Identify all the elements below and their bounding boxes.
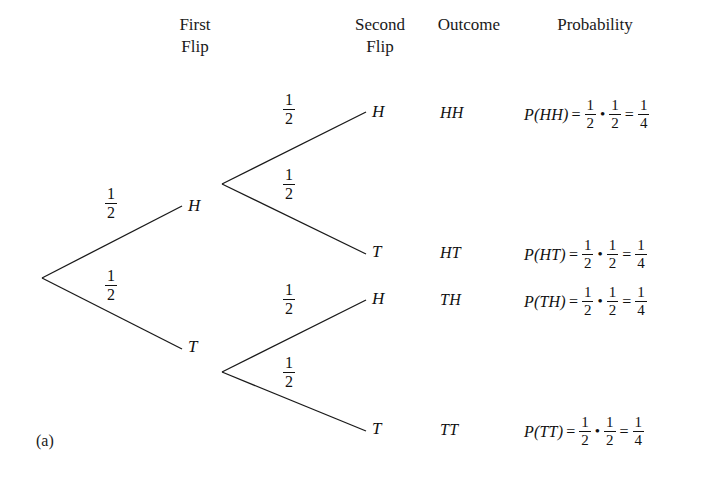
prob-tt-f1-den: 2 [579, 432, 591, 448]
node-second-flip-h-2: H [372, 289, 384, 309]
prob-tt-result-num: 1 [633, 415, 645, 432]
prob-equals-tt: = [566, 423, 575, 441]
prob-th-f2-num: 1 [607, 285, 619, 302]
prob-times-hh: • [600, 107, 605, 122]
prob-equals2-ht: = [622, 246, 631, 264]
prob-times-ht: • [597, 247, 602, 262]
prob-ht-result-num: 1 [635, 238, 647, 255]
prob-th-f2-den: 2 [607, 302, 619, 318]
prob-ht-f1-num: 1 [582, 238, 594, 255]
header-first-line1: First [160, 14, 230, 36]
column-header-second-flip: Second Flip [340, 14, 420, 58]
prob-th-result-num: 1 [635, 285, 647, 302]
outcome-label-tt: TT [440, 421, 458, 439]
prob-ht-result-den: 4 [635, 255, 647, 271]
branch-label-h-ht-den: 2 [283, 185, 295, 202]
probability-equation-hh: P(HH) = 1 2 • 1 2 = 1 4 [524, 98, 650, 131]
prob-th-result-den: 4 [635, 302, 647, 318]
prob-equals2-tt: = [620, 423, 629, 441]
prob-equals-th: = [569, 293, 578, 311]
header-second-line2: Flip [340, 36, 420, 58]
prob-tt-f1-num: 1 [579, 415, 591, 432]
branch-label-h-hh-num: 1 [283, 92, 295, 110]
outcome-label-ht: HT [440, 244, 461, 262]
node-second-flip-t-2: T [372, 419, 381, 439]
prob-hh-result-den: 4 [638, 115, 650, 131]
header-outcome-line1: Outcome [424, 14, 514, 36]
branch-label-root-t-num: 1 [105, 268, 117, 286]
prob-equals2-th: = [622, 293, 631, 311]
outcome-label-th: TH [440, 291, 461, 309]
probability-equation-tt: P(TT) = 1 2 • 1 2 = 1 4 [524, 415, 645, 448]
prob-times-tt: • [595, 424, 600, 439]
prob-ht-f2-num: 1 [607, 238, 619, 255]
header-first-line2: Flip [160, 36, 230, 58]
prob-equals2-hh: = [625, 106, 634, 124]
node-first-flip-h: H [188, 196, 200, 216]
prob-function-hh: P(HH) [524, 106, 569, 124]
prob-th-f1-den: 2 [582, 302, 594, 318]
header-second-line1: Second [340, 14, 420, 36]
prob-tt-f2-den: 2 [604, 432, 616, 448]
prob-ht-f1-den: 2 [582, 255, 594, 271]
figure-caption: (a) [36, 432, 54, 450]
probability-tree-figure: First Flip Second Flip Outcome Probabili… [0, 0, 720, 500]
prob-th-f1-num: 1 [582, 285, 594, 302]
probability-equation-ht: P(HT) = 1 2 • 1 2 = 1 4 [524, 238, 648, 271]
branch-label-t-th: 1 2 [282, 282, 296, 317]
prob-hh-f1-num: 1 [585, 98, 597, 115]
prob-equals-ht: = [569, 246, 578, 264]
prob-hh-result-num: 1 [638, 98, 650, 115]
probability-equation-th: P(TH) = 1 2 • 1 2 = 1 4 [524, 285, 648, 318]
branch-label-t-tt-den: 2 [283, 373, 295, 390]
column-header-first-flip: First Flip [160, 14, 230, 58]
prob-tt-f2-num: 1 [604, 415, 616, 432]
branch-label-t-th-den: 2 [283, 300, 295, 317]
branch-label-root-t: 1 2 [104, 268, 118, 303]
branch-label-t-tt: 1 2 [282, 355, 296, 390]
branch-label-h-hh: 1 2 [282, 92, 296, 127]
node-second-flip-h-1: H [372, 102, 384, 122]
prob-hh-f2-den: 2 [609, 115, 621, 131]
prob-equals-hh: = [572, 106, 581, 124]
node-second-flip-t-1: T [372, 242, 381, 262]
node-first-flip-t: T [188, 337, 197, 357]
prob-ht-f2-den: 2 [607, 255, 619, 271]
branch-label-h-ht-num: 1 [283, 167, 295, 185]
prob-hh-f1-den: 2 [585, 115, 597, 131]
branch-label-t-tt-num: 1 [283, 355, 295, 373]
branch-label-root-t-den: 2 [105, 286, 117, 303]
prob-tt-result-den: 4 [633, 432, 645, 448]
prob-hh-f2-num: 1 [609, 98, 621, 115]
branch-label-root-h-den: 2 [105, 204, 117, 221]
column-header-outcome: Outcome [424, 14, 514, 36]
branch-label-h-hh-den: 2 [283, 110, 295, 127]
outcome-label-hh: HH [440, 104, 464, 122]
prob-times-th: • [597, 294, 602, 309]
prob-function-tt: P(TT) [524, 423, 563, 441]
prob-function-ht: P(HT) [524, 246, 566, 264]
column-header-probability: Probability [530, 14, 660, 36]
branch-label-root-h-num: 1 [105, 186, 117, 204]
prob-function-th: P(TH) [524, 293, 566, 311]
branch-label-root-h: 1 2 [104, 186, 118, 221]
header-probability-line1: Probability [530, 14, 660, 36]
branch-label-t-th-num: 1 [283, 282, 295, 300]
branch-label-h-ht: 1 2 [282, 167, 296, 202]
